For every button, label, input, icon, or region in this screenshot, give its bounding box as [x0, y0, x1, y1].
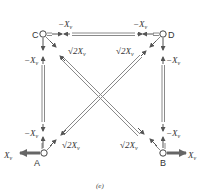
node-label-b: B: [160, 158, 166, 168]
node-c: [40, 31, 46, 37]
force-label-cd-right: −Xv: [133, 19, 148, 30]
force-label-ad-top: √2Xv: [116, 46, 134, 57]
force-label-cd-left: −Xv: [58, 19, 73, 30]
node-a: [41, 150, 47, 156]
node-label-a: A: [34, 158, 40, 168]
forces-at-b: [138, 124, 163, 148]
node-b: [160, 150, 166, 156]
load-label-b: Xv: [187, 150, 197, 161]
force-label-cb-top: √2Xv: [68, 46, 86, 57]
force-label-ca-top: −Xv: [24, 55, 39, 66]
force-label-ad-bottom: √2Xv: [62, 140, 80, 151]
force-label-cb-bottom: √2Xv: [120, 140, 138, 151]
force-label-db-bottom: −Xv: [166, 128, 181, 139]
load-label-a: Xv: [3, 150, 13, 161]
node-label-c: C: [32, 30, 39, 40]
member-ca: [42, 65, 45, 122]
member-cb: [60, 56, 140, 136]
node-d: [160, 31, 166, 37]
member-ad: [62, 55, 142, 135]
member-db: [162, 65, 165, 122]
member-cd: [72, 33, 135, 36]
figure-caption: (e): [96, 182, 104, 190]
force-label-ca-bottom: −Xv: [24, 128, 39, 139]
force-label-db-top: −Xv: [166, 55, 181, 66]
truss-diagram: C D A B −Xv −Xv −Xv −Xv −Xv −Xv √2Xv √2X…: [0, 0, 208, 195]
node-label-d: D: [168, 30, 175, 40]
